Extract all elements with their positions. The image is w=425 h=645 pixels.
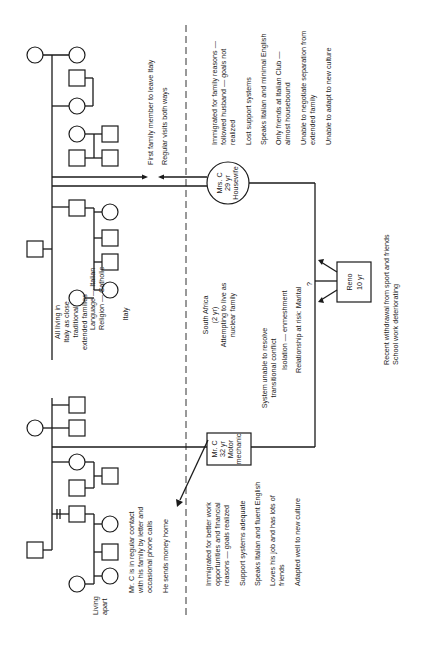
svg-text:First family member to leave I: First family member to leave Italy (146, 59, 155, 165)
svg-text:mechanic: mechanic (234, 433, 243, 464)
svg-text:almost housebound: almost housebound (283, 82, 292, 145)
grandfather-square (27, 542, 43, 558)
male-square (69, 70, 85, 86)
svg-text:Italy: Italy (121, 307, 130, 321)
male-square (69, 420, 85, 436)
mrs-c-family-note: First family member to leave Italy Regul… (146, 59, 169, 165)
svg-text:occasional phone calls: occasional phone calls (145, 520, 154, 593)
female-circle (102, 516, 118, 532)
male-square (69, 506, 85, 522)
male-square (102, 544, 118, 560)
svg-text:He sends money home: He sends money home (161, 519, 170, 593)
svg-text:Immigrated for better work: Immigrated for better work (204, 502, 213, 586)
arrow-icon (176, 499, 183, 507)
living-apart-label: Living apart (91, 596, 109, 615)
mrs-c-notes: Immigrated for family reasons — followed… (210, 31, 333, 145)
reno-notes: Recent withdrawal from sport and friends… (382, 234, 400, 365)
male-square (102, 230, 118, 246)
svg-text:Mr. C is in regular contact: Mr. C is in regular contact (127, 512, 136, 594)
svg-text:Italy as close: Italy as close (62, 301, 71, 343)
svg-text:Regular visits both ways: Regular visits both ways (160, 87, 169, 165)
svg-text:extended family: extended family (308, 94, 317, 145)
svg-text:friends: friends (277, 564, 286, 586)
svg-text:School work deteriorating: School work deteriorating (391, 284, 400, 365)
svg-text:Relationship at risk: Marital: Relationship at risk: Marital (294, 286, 303, 373)
arrow-left-icon (158, 175, 164, 180)
male-square (69, 150, 85, 166)
svg-text:(2 yr): (2 yr) (210, 307, 219, 324)
male-square (102, 468, 118, 484)
male-square (102, 150, 118, 166)
italy-culture: Language — Italian Religion — Catholic (88, 266, 106, 330)
svg-text:Living: Living (91, 596, 100, 615)
system-note: System unable to resolve transitional co… (260, 328, 278, 409)
svg-text:followed husband — goals not: followed husband — goals not (219, 49, 228, 145)
svg-text:Language — Italian: Language — Italian (88, 268, 97, 330)
svg-text:transitional conflict: transitional conflict (269, 338, 278, 397)
male-square (69, 200, 85, 216)
svg-text:nuclear family: nuclear family (228, 292, 237, 337)
male-square (69, 480, 85, 496)
female-circle (102, 204, 118, 220)
svg-text:?: ? (305, 282, 314, 286)
reno-label: Reno 10 yr (345, 273, 364, 290)
svg-text:All living in: All living in (53, 305, 62, 339)
svg-text:Unable to adapt to new culture: Unable to adapt to new culture (324, 48, 333, 146)
grandmother-circle (27, 47, 43, 63)
svg-text:Lost support systems: Lost support systems (244, 77, 253, 145)
mr-c-family-of-origin (27, 397, 207, 592)
female-circle (69, 454, 85, 470)
female-circle (69, 576, 85, 592)
question-mark: ? (305, 282, 314, 286)
female-circle (69, 126, 85, 142)
svg-text:realized: realized (228, 120, 237, 145)
svg-text:Isolation — enmeshment: Isolation — enmeshment (280, 290, 289, 370)
svg-text:Housewife: Housewife (231, 166, 240, 200)
svg-text:Support systems adequate: Support systems adequate (238, 500, 247, 586)
svg-text:Attempting to live as: Attempting to live as (219, 282, 228, 347)
genogram-diagram: Mrs. C 29 yr Housewife Mr. C 32 yr Motor… (0, 0, 425, 645)
arrow-icon (318, 259, 324, 265)
svg-text:apart: apart (100, 599, 109, 615)
relationship-note: Relationship at risk: Marital (294, 286, 303, 373)
svg-text:Recent withdrawal from sport a: Recent withdrawal from sport and friends (382, 234, 391, 365)
female-circle (69, 47, 85, 63)
svg-text:10 yr: 10 yr (355, 273, 364, 290)
mr-c-notes: Immigrated for better work opportunities… (204, 482, 302, 586)
svg-text:Speaks Italian and fluent Engl: Speaks Italian and fluent English (253, 482, 262, 586)
svg-text:Religion — Catholic: Religion — Catholic (97, 266, 106, 330)
svg-text:Loves his job and has lots of: Loves his job and has lots of (268, 495, 277, 586)
svg-text:System unable to resolve: System unable to resolve (260, 328, 269, 409)
svg-text:reasons — goals realized: reasons — goals realized (222, 505, 231, 586)
svg-text:Adapted well to new culture: Adapted well to new culture (293, 498, 302, 586)
isolation-note: Isolation — enmeshment (280, 290, 289, 370)
svg-text:South Africa: South Africa (201, 296, 210, 335)
grandfather-square (27, 241, 43, 257)
grandmother-circle (27, 420, 43, 436)
male-square (69, 397, 85, 413)
mr-c-family-note: Mr. C is in regular contact with his fam… (127, 507, 170, 594)
svg-text:Speaks Italian and minimal Eng: Speaks Italian and minimal English (259, 34, 268, 145)
svg-text:Reno: Reno (345, 273, 354, 290)
svg-text:Unable to negotiate separation: Unable to negotiate separation from (299, 31, 308, 145)
svg-text:Only friends at Italian Club —: Only friends at Italian Club — (274, 51, 283, 145)
svg-text:with his family by letter and: with his family by letter and (136, 507, 145, 594)
svg-text:traditional: traditional (71, 306, 80, 338)
male-square (102, 126, 118, 142)
female-circle (69, 98, 85, 114)
svg-text:opportunities and financial: opportunities and financial (213, 502, 222, 586)
female-circle (102, 568, 118, 584)
svg-text:Immigrated for family reasons: Immigrated for family reasons — (210, 40, 219, 145)
italy-country-label: Italy (121, 307, 130, 321)
arrow-right-icon (142, 175, 148, 180)
reno-square (337, 262, 371, 302)
arrow-icon (318, 297, 324, 303)
south-africa-label: South Africa (2 yr) Attempting to live a… (201, 282, 237, 347)
